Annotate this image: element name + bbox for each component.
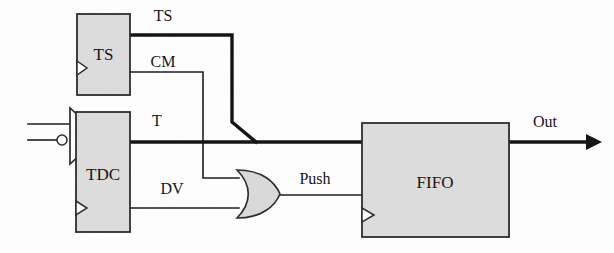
block-fifo[interactable]: FIFO [362, 123, 509, 237]
out-arrowhead-icon [586, 134, 602, 150]
block-tdc[interactable]: TDC [76, 112, 130, 232]
signal-label-push: Push [299, 170, 330, 187]
ts-bus-wire [130, 35, 256, 142]
inverting-input-bubble-icon [57, 135, 67, 145]
block-ts-label: TS [94, 45, 114, 64]
signal-label-t: T [152, 112, 162, 129]
signal-label-cm: CM [151, 53, 176, 70]
signal-label-dv: DV [160, 180, 184, 197]
cm-wire [130, 72, 239, 178]
circuit-diagram: TS TDC FIFO TS CM T DV Push Out [0, 0, 614, 253]
block-tdc-label: TDC [86, 165, 120, 184]
or-gate-body [237, 170, 280, 218]
signal-label-ts: TS [154, 7, 173, 24]
schematic-canvas: TS TDC FIFO TS CM T DV Push Out [0, 0, 614, 253]
block-fifo-label: FIFO [417, 173, 454, 192]
signal-label-out: Out [533, 113, 558, 130]
or-gate[interactable] [237, 170, 280, 218]
block-ts[interactable]: TS [77, 14, 130, 95]
